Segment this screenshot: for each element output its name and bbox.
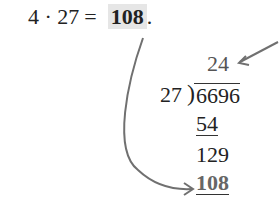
arrows xyxy=(0,0,280,220)
curved-arrow-icon xyxy=(124,38,193,195)
arrow-to-quotient-icon xyxy=(239,42,278,65)
